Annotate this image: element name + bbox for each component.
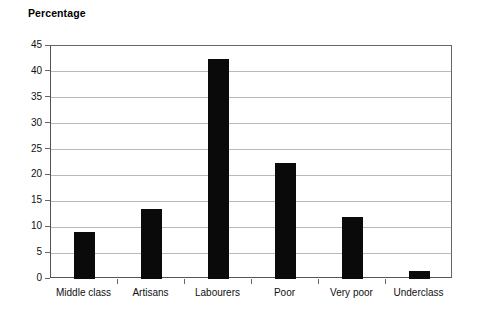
y-axis-tick-label: 5 — [8, 246, 42, 257]
bar-chart: Percentage 051015202530354045 Middle cla… — [0, 0, 477, 317]
bar[interactable] — [409, 271, 430, 279]
x-axis-tick — [318, 279, 319, 284]
x-axis-tick — [117, 279, 118, 284]
x-axis-tick-label: Underclass — [385, 287, 452, 298]
x-axis-tick-label: Poor — [251, 287, 318, 298]
bar[interactable] — [342, 217, 363, 279]
x-axis-tick-label: Artisans — [117, 287, 184, 298]
y-axis-tick-label: 15 — [8, 194, 42, 205]
bar[interactable] — [74, 232, 95, 279]
chart-title: Percentage — [28, 7, 86, 19]
y-axis-tick-label: 25 — [8, 143, 42, 154]
y-axis-tick-label: 0 — [8, 272, 42, 283]
bars-layer — [51, 46, 451, 277]
x-axis-tick — [251, 279, 252, 284]
plot-area — [50, 45, 452, 278]
y-axis-tick-label: 45 — [8, 39, 42, 50]
x-axis-tick — [385, 279, 386, 284]
x-axis-tick — [184, 279, 185, 284]
y-axis-tick-label: 20 — [8, 168, 42, 179]
bar[interactable] — [275, 163, 296, 280]
x-axis-tick-label: Labourers — [184, 287, 251, 298]
bar[interactable] — [141, 209, 162, 279]
y-axis-tick-label: 10 — [8, 220, 42, 231]
y-axis-tick-label: 30 — [8, 117, 42, 128]
y-axis-tick-label: 40 — [8, 65, 42, 76]
x-axis-tick-label: Middle class — [50, 287, 117, 298]
x-axis-tick-label: Very poor — [318, 287, 385, 298]
y-axis-tick-label: 35 — [8, 91, 42, 102]
bar[interactable] — [208, 59, 229, 279]
